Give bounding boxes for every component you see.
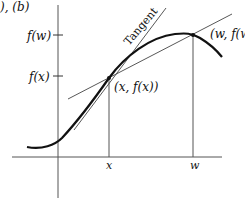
point-x-fx-label: (x, f(x))	[114, 80, 159, 94]
point-w-fw-label: (w, f(w	[210, 27, 245, 41]
fw-label: f(w)	[26, 29, 51, 43]
fx-label: f(x)	[28, 70, 50, 84]
tangent-line	[74, 8, 166, 130]
corner-label: ), (b)	[0, 0, 30, 14]
x-label: x	[106, 159, 113, 172]
point-w-fw	[191, 33, 195, 37]
w-label: w	[190, 159, 200, 172]
point-x-fx	[107, 76, 111, 80]
diagram-canvas: ), (b) f(w) f(x) x w (x, f(x)) (w, f(w T…	[0, 0, 245, 198]
